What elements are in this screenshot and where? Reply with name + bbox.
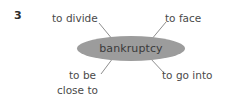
center-node-label: bankruptcy — [99, 43, 162, 54]
collocate-to-divide: to divide — [52, 12, 98, 24]
collocate-to-be: to be — [69, 69, 96, 81]
word-web-diagram: 3 bankruptcy to divide to face to be clo… — [0, 0, 233, 112]
collocate-close-to: close to — [57, 84, 98, 96]
collocate-to-go-into: to go into — [162, 69, 212, 81]
center-node: bankruptcy — [77, 36, 185, 61]
connector-line-to-be — [101, 58, 113, 74]
collocate-to-face: to face — [165, 12, 201, 24]
